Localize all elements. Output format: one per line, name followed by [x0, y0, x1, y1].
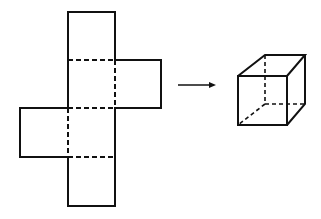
cube-net — [20, 12, 161, 206]
arrow-icon — [178, 82, 216, 88]
net-outline — [20, 12, 161, 206]
cube-top-edges — [238, 55, 305, 76]
net-fold-lines — [68, 60, 115, 157]
diagram-canvas — [0, 0, 321, 219]
cube — [238, 55, 305, 125]
cube-front-face — [238, 76, 287, 125]
